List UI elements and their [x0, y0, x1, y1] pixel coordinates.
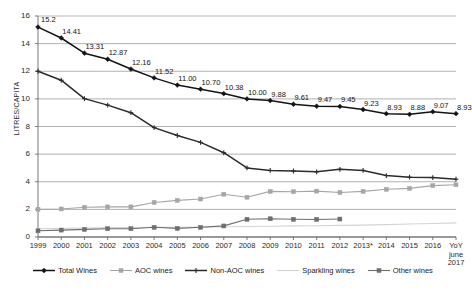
data-label: 10.00	[248, 88, 267, 97]
y-axis-tick-label: 16	[8, 11, 30, 20]
x-axis-tick-label: 2011	[304, 242, 330, 251]
x-axis-tick-label: YoYjune2017	[441, 242, 471, 268]
legend-item[interactable]: AOC wines	[110, 266, 173, 275]
data-label: 10.38	[225, 83, 244, 92]
legend-label: Other wines	[393, 266, 433, 275]
x-axis-tick-label: 2005	[164, 242, 190, 251]
data-label: 12.87	[109, 48, 128, 57]
data-label: 12.16	[132, 58, 151, 67]
chart-legend: Total WinesAOC winesNon-AOC winesSparkli…	[0, 266, 466, 275]
data-label: 10.70	[202, 78, 221, 87]
data-label: 9.61	[294, 93, 309, 102]
y-axis-tick-label: 2	[8, 204, 30, 213]
y-axis-tick-label: 0	[8, 232, 30, 241]
series-aoc-wines	[36, 183, 458, 212]
data-label: 8.88	[411, 103, 426, 112]
x-axis-tick-label: 2006	[188, 242, 214, 251]
series-sparkling-wines	[38, 223, 456, 229]
y-axis-tick-label: 10	[8, 94, 30, 103]
data-label: 8.93	[387, 103, 402, 112]
x-axis-tick-label: 2007	[211, 242, 237, 251]
data-label: 11.52	[155, 67, 173, 76]
x-axis-tick-label: 2001	[71, 242, 97, 251]
legend-item[interactable]: Total Wines	[33, 266, 97, 275]
y-axis-tick-label: 12	[8, 66, 30, 75]
data-label: 13.31	[85, 42, 104, 51]
legend-label: Non-AOC wines	[210, 266, 264, 275]
y-axis-tick-label: 6	[8, 149, 30, 158]
data-label: 15.2	[41, 15, 56, 24]
legend-item[interactable]: Sparkling wines	[277, 266, 355, 275]
data-label: 9.45	[341, 95, 356, 104]
x-axis-tick-label: 2012	[327, 242, 353, 251]
y-axis-tick-label: 8	[8, 122, 30, 131]
legend-marker-icon	[368, 266, 390, 275]
legend-marker-icon	[185, 266, 207, 275]
data-label: 9.47	[318, 95, 333, 104]
data-label: 9.88	[271, 90, 286, 99]
legend-label: AOC wines	[135, 266, 173, 275]
legend-label: Sparkling wines	[302, 266, 355, 275]
data-label: 9.23	[364, 99, 379, 108]
legend-marker-icon	[277, 266, 299, 275]
legend-marker-icon	[110, 266, 132, 275]
x-axis-tick-label: 2014	[373, 242, 399, 251]
data-label: 11.00	[178, 74, 196, 83]
data-label: 14.41	[62, 27, 81, 36]
data-label: 8.93	[457, 103, 472, 112]
legend-item[interactable]: Non-AOC wines	[185, 266, 264, 275]
x-axis-tick-label: 2013*	[350, 242, 376, 251]
x-axis-tick-label: 2002	[95, 242, 121, 251]
y-axis-tick-label: 4	[8, 177, 30, 186]
legend-marker-icon	[33, 266, 55, 275]
series-other-wines	[36, 217, 342, 233]
data-label: 9.07	[434, 101, 449, 110]
x-axis-tick-label: 2000	[48, 242, 74, 251]
series-non-aoc-wines	[36, 69, 459, 182]
x-axis-tick-label: 1999	[25, 242, 51, 251]
x-axis-tick-label: 2004	[141, 242, 167, 251]
x-axis-tick-label: 2009	[257, 242, 283, 251]
x-axis-tick-label: 2008	[234, 242, 260, 251]
x-axis-tick-label: 2003	[118, 242, 144, 251]
legend-label: Total Wines	[58, 266, 97, 275]
legend-item[interactable]: Other wines	[368, 266, 433, 275]
x-axis-tick-label: 2015	[397, 242, 423, 251]
x-axis-tick-label: 2010	[280, 242, 306, 251]
y-axis-tick-label: 14	[8, 39, 30, 48]
